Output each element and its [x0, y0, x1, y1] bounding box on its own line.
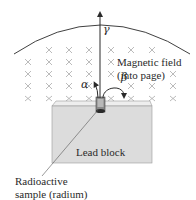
- sample-label-line2: sample (radium): [15, 188, 88, 200]
- cross-icon: [46, 83, 52, 89]
- block-label: Lead block: [76, 146, 126, 158]
- cross-icon: [128, 96, 134, 101]
- cross-icon: [25, 96, 31, 101]
- cross-icon: [149, 47, 155, 53]
- cross-icon: [86, 96, 92, 101]
- cross-icon: [128, 47, 134, 53]
- alpha-ray-path: [95, 84, 98, 98]
- gamma-label: γ: [103, 23, 110, 36]
- cross-icon: [108, 96, 114, 101]
- cross-icon: [128, 83, 134, 89]
- cross-icon: [66, 96, 72, 101]
- cross-icon: [66, 71, 72, 77]
- cross-icon: [25, 71, 31, 77]
- field-label-line1: Magnetic field: [117, 56, 182, 68]
- cross-icon: [86, 47, 92, 53]
- cross-icon: [25, 83, 31, 89]
- cross-icon: [108, 71, 114, 77]
- cross-icon: [46, 59, 52, 65]
- cross-icon: [108, 47, 114, 53]
- sample-label-line1: Radioactive: [15, 175, 68, 187]
- cross-icon: [149, 96, 155, 101]
- cross-icon: [86, 71, 92, 77]
- cross-icon: [46, 47, 52, 53]
- cross-icon: [46, 96, 52, 101]
- alpha-label: α: [81, 78, 89, 91]
- cross-icon: [66, 47, 72, 53]
- cross-icon: [170, 96, 176, 101]
- cross-icon: [25, 59, 31, 65]
- cross-icon: [170, 71, 176, 77]
- cross-icon: [66, 59, 72, 65]
- field-boundary-arc: [14, 25, 190, 54]
- cross-icon: [66, 83, 72, 89]
- cross-icon: [46, 71, 52, 77]
- cross-icon: [170, 83, 176, 89]
- cross-icon: [86, 59, 92, 65]
- cross-icon: [108, 59, 114, 65]
- cross-icon: [149, 83, 155, 89]
- field-label-line2: (into page): [117, 69, 165, 82]
- radiation-diagram: γ α β Magnetic field (into page) Lead bl…: [0, 0, 196, 200]
